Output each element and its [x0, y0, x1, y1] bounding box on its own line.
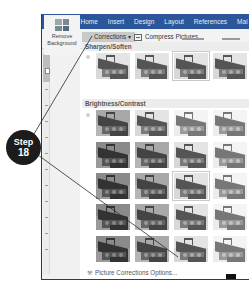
picture-corrections-options-label: Picture Corrections Options...	[95, 269, 177, 276]
tab-design[interactable]: Design	[129, 14, 159, 29]
correction-thumbnail[interactable]	[96, 110, 130, 136]
correction-thumbnail[interactable]	[96, 53, 130, 79]
compress-pictures-label: Compress Pictures	[145, 32, 198, 42]
document-icon	[45, 68, 50, 74]
correction-thumbnail[interactable]	[213, 142, 247, 168]
status-bar-corner	[226, 274, 236, 279]
correction-thumbnail[interactable]	[174, 110, 208, 136]
correction-thumbnail[interactable]	[96, 236, 130, 262]
correction-thumbnail[interactable]	[135, 236, 169, 262]
correction-thumbnail[interactable]	[174, 236, 208, 262]
correction-thumbnail[interactable]	[135, 142, 169, 168]
correction-thumbnail[interactable]	[135, 204, 169, 230]
corrections-dropdown-gallery: Sharpen/Soften Brightness/Contrast ⚒ Pic…	[82, 42, 249, 277]
tab-references[interactable]: References	[189, 14, 232, 29]
correction-thumbnail[interactable]	[174, 173, 208, 199]
correction-thumbnail[interactable]	[213, 173, 247, 199]
correction-thumbnail[interactable]	[213, 110, 247, 136]
vertical-ruler	[43, 49, 50, 274]
section-marker-icon	[86, 113, 90, 117]
compress-pictures-icon	[134, 34, 142, 41]
correction-thumbnail[interactable]	[174, 204, 208, 230]
step-callout-number: 18	[6, 147, 41, 158]
correction-thumbnail[interactable]	[135, 173, 169, 199]
remove-background-label-1: Remove	[44, 33, 80, 40]
step-callout-label: Step	[6, 137, 41, 147]
correction-thumbnail[interactable]	[96, 142, 130, 168]
ribbon-control-placeholder	[182, 38, 204, 40]
remove-background-icon	[55, 19, 69, 31]
remove-background-label-2: Background	[44, 40, 80, 47]
tab-layout[interactable]: Layout	[159, 14, 189, 29]
remove-background-button[interactable]: Remove Background	[44, 15, 80, 55]
ribbon-control-placeholder	[222, 38, 240, 40]
tab-mailings[interactable]: Mai	[232, 14, 249, 29]
correction-thumbnail[interactable]	[174, 53, 208, 79]
correction-thumbnail[interactable]	[174, 142, 208, 168]
correction-thumbnail[interactable]	[213, 236, 247, 262]
correction-thumbnail[interactable]	[213, 204, 247, 230]
word-window: File Home Insert Design Layout Reference…	[41, 14, 249, 280]
section-marker-icon	[86, 55, 90, 59]
tab-insert[interactable]: Insert	[103, 14, 129, 29]
picture-corrections-icon: ⚒	[87, 269, 92, 276]
compress-pictures-button[interactable]: Compress Pictures	[134, 32, 198, 42]
picture-corrections-options-link[interactable]: ⚒ Picture Corrections Options...	[82, 267, 249, 277]
correction-thumbnail[interactable]	[135, 53, 169, 79]
correction-thumbnail[interactable]	[213, 53, 247, 79]
correction-thumbnail[interactable]	[96, 173, 130, 199]
section-header-brightness-contrast: Brightness/Contrast	[82, 99, 249, 108]
correction-thumbnail[interactable]	[96, 204, 130, 230]
correction-thumbnail[interactable]	[135, 110, 169, 136]
step-callout-badge: Step 18	[6, 130, 41, 165]
section-header-sharpen-soften: Sharpen/Soften	[82, 42, 249, 51]
corrections-button[interactable]: Corrections ▾	[82, 32, 135, 42]
